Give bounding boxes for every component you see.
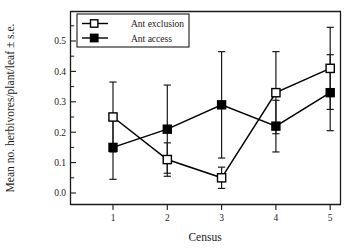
- y-tick-label-5: 0.5: [54, 36, 66, 46]
- error-bars-access: [109, 52, 333, 180]
- open-square-marker: [326, 64, 334, 72]
- plot-canvas: 0.0 0.1 0.2 0.3 0.4 0.5 1 2 3 4 5 Census…: [0, 0, 361, 249]
- x-axis-ticks: [113, 205, 330, 211]
- x-axis-title: Census: [188, 231, 222, 243]
- legend-label-access: Ant access: [131, 34, 172, 44]
- open-square-marker: [218, 174, 226, 182]
- filled-square-marker: [272, 122, 280, 130]
- x-tick-label-3: 3: [219, 213, 224, 223]
- y-tick-labels: 0.0 0.1 0.2 0.3 0.4 0.5: [54, 36, 66, 198]
- x-tick-label-1: 1: [111, 213, 116, 223]
- y-tick-label-4: 0.4: [54, 67, 66, 77]
- y-axis-ticks: [71, 26, 77, 193]
- open-square-marker: [109, 113, 117, 121]
- filled-square-marker: [109, 143, 117, 151]
- x-tick-labels: 1 2 3 4 5: [111, 213, 333, 223]
- filled-square-marker: [163, 125, 171, 133]
- y-axis-title: Mean no. herbivores/plant/leaf ± s.e.: [4, 23, 17, 192]
- data-series-layer: [109, 27, 334, 188]
- open-square-marker: [163, 155, 171, 163]
- chart-figure: 0.0 0.1 0.2 0.3 0.4 0.5 1 2 3 4 5 Census…: [0, 0, 361, 249]
- filled-square-marker: [218, 101, 226, 109]
- y-tick-label-3: 0.3: [54, 97, 66, 107]
- legend-label-exclusion: Ant exclusion: [131, 19, 184, 29]
- filled-square-marker: [326, 89, 334, 97]
- y-tick-label-2: 0.2: [54, 128, 66, 138]
- legend-entry-ant-exclusion[interactable]: Ant exclusion: [82, 19, 184, 29]
- open-square-marker: [272, 89, 280, 97]
- x-tick-label-4: 4: [274, 213, 279, 223]
- x-tick-label-2: 2: [165, 213, 170, 223]
- y-tick-label-1: 0.1: [54, 158, 66, 168]
- y-tick-label-0: 0.0: [54, 188, 66, 198]
- open-square-icon: [91, 20, 98, 27]
- legend: Ant exclusion Ant access: [77, 14, 189, 47]
- x-tick-label-5: 5: [328, 213, 333, 223]
- filled-square-icon: [91, 34, 98, 41]
